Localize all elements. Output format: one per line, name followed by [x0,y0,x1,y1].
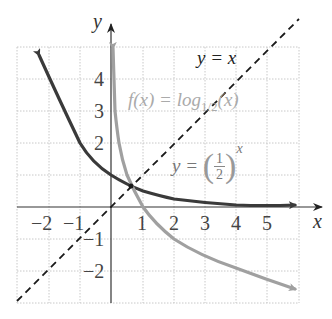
tick-y-neg2: −2 [83,260,104,283]
tick-x-4: 4 [231,212,241,235]
tick-y-2: 2 [94,132,104,155]
tick-x-3: 3 [200,212,210,235]
tick-x-2: 2 [169,212,179,235]
exp-label-denominator: 2 [214,167,225,182]
tick-y-3: 3 [94,100,104,123]
log-label-arg: (x) [218,89,239,110]
tick-x-5: 5 [262,212,272,235]
curve-exponential [39,55,295,206]
intersection-point [129,184,134,189]
graph [0,0,332,319]
line-y-equals-x [17,19,299,301]
x-axis-label: x [313,210,322,233]
tick-y-4: 4 [94,68,104,91]
log-label-base: 1/2 [201,99,218,114]
grid [17,47,299,303]
tick-x-neg1: −1 [63,212,84,235]
label-y-equals-x: y = x [197,47,236,69]
label-log-function: f(x) = log1/2(x) [128,89,239,115]
exp-label-numerator: 1 [214,151,225,167]
tick-x-1: 1 [137,212,147,235]
log-label-main: f(x) = log [128,89,201,110]
label-exponential: y = ( 1 2 )x [172,147,243,185]
tick-x-neg2: −2 [31,212,52,235]
y-axis-label: y [93,10,102,33]
tick-y-neg1: −1 [83,228,104,251]
exp-label-y: y = [172,155,198,176]
exp-label-power: x [236,141,242,156]
